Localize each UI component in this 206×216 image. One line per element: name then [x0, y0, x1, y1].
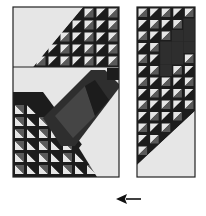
hst-unit — [150, 78, 159, 87]
hst-unit — [27, 165, 36, 174]
hst-unit — [139, 112, 148, 121]
dark-cell — [183, 30, 195, 42]
hst-unit — [15, 129, 24, 138]
hst-unit — [85, 57, 94, 66]
hst-unit — [39, 141, 48, 150]
hst-unit — [162, 20, 171, 29]
hst-unit — [27, 141, 36, 150]
hst-unit — [61, 57, 70, 66]
hst-unit — [173, 66, 182, 75]
hst-unit — [75, 153, 84, 162]
hst-unit — [51, 165, 60, 174]
hst-unit — [109, 45, 118, 54]
hst-unit — [150, 124, 159, 133]
arrow-left-icon — [116, 194, 141, 204]
hst-unit — [27, 117, 36, 126]
hst-unit — [185, 66, 194, 75]
hst-unit — [185, 78, 194, 87]
hst-unit — [27, 129, 36, 138]
hst-unit — [15, 141, 24, 150]
dark-cell — [160, 65, 172, 77]
right-panel — [137, 7, 195, 177]
dark-cell — [183, 42, 195, 54]
hst-unit — [109, 9, 118, 18]
hst-unit — [15, 165, 24, 174]
hst-unit — [73, 21, 82, 30]
hst-unit — [139, 135, 148, 144]
hst-unit — [139, 89, 148, 98]
hst-unit — [150, 66, 159, 75]
left-top-section — [13, 7, 119, 67]
hst-unit — [85, 45, 94, 54]
hst-unit — [173, 101, 182, 110]
hst-unit — [150, 89, 159, 98]
hst-unit — [150, 20, 159, 29]
hst-unit — [109, 21, 118, 30]
hst-unit — [97, 9, 106, 18]
arrow-head — [116, 194, 127, 204]
hst-unit — [150, 43, 159, 52]
hst-unit — [162, 101, 171, 110]
hst-unit — [75, 165, 84, 174]
left-panel — [13, 7, 119, 177]
dark-cell — [183, 19, 195, 31]
hst-unit — [150, 101, 159, 110]
hst-unit — [73, 45, 82, 54]
hst-unit — [139, 55, 148, 64]
hst-unit — [185, 55, 194, 64]
hst-unit — [173, 112, 182, 121]
hst-unit — [162, 112, 171, 121]
hst-unit — [150, 9, 159, 18]
hst-unit — [27, 153, 36, 162]
hst-unit — [150, 32, 159, 41]
hst-unit — [51, 153, 60, 162]
hst-unit — [139, 101, 148, 110]
hst-unit — [15, 117, 24, 126]
dark-cell — [160, 42, 172, 54]
dark-cell — [172, 53, 184, 65]
hst-unit — [109, 57, 118, 66]
hst-unit — [63, 153, 72, 162]
hst-unit — [139, 66, 148, 75]
dark-cell — [172, 30, 184, 42]
hst-unit — [139, 43, 148, 52]
hst-unit — [173, 20, 182, 29]
hst-unit — [97, 45, 106, 54]
hst-unit — [61, 33, 70, 42]
hst-unit — [173, 9, 182, 18]
dark-cell — [160, 53, 172, 65]
hst-unit — [162, 124, 171, 133]
hst-unit — [185, 9, 194, 18]
hst-unit — [173, 89, 182, 98]
hst-unit — [185, 101, 194, 110]
hst-unit — [150, 135, 159, 144]
hst-unit — [85, 9, 94, 18]
hst-unit — [49, 57, 58, 66]
hst-unit — [150, 55, 159, 64]
hst-unit — [162, 78, 171, 87]
hst-unit — [39, 165, 48, 174]
hst-unit — [73, 57, 82, 66]
hst-unit — [39, 153, 48, 162]
hst-unit — [150, 112, 159, 121]
hst-unit — [139, 78, 148, 87]
hst-unit — [139, 124, 148, 133]
hst-unit — [162, 89, 171, 98]
hst-unit — [109, 33, 118, 42]
hst-unit — [139, 9, 148, 18]
hst-unit — [139, 20, 148, 29]
hst-unit — [162, 9, 171, 18]
quilt-diagram — [0, 0, 206, 216]
hst-unit — [39, 129, 48, 138]
hst-unit — [15, 153, 24, 162]
hst-unit — [173, 78, 182, 87]
hst-unit — [97, 57, 106, 66]
hst-unit — [15, 105, 24, 114]
hst-unit — [63, 165, 72, 174]
corner-square — [107, 68, 119, 80]
hst-unit — [61, 45, 70, 54]
hst-unit — [85, 21, 94, 30]
hst-unit — [27, 105, 36, 114]
hst-unit — [139, 32, 148, 41]
hst-unit — [85, 33, 94, 42]
